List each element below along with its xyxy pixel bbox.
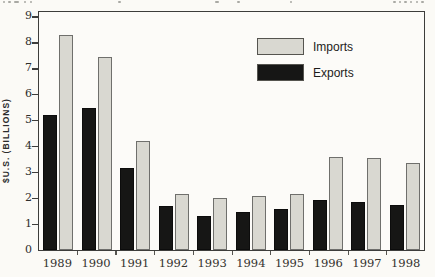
y-tick-label-1: 1 <box>14 217 32 231</box>
bar-group-1989 <box>39 12 78 250</box>
bar-imports-1990 <box>98 57 112 250</box>
bar-imports-1991 <box>136 141 150 250</box>
plot-area: ImportsExports <box>38 11 425 251</box>
x-tick-label-1996: 1996 <box>309 256 348 270</box>
x-tick-label-1990: 1990 <box>77 256 116 270</box>
legend-label-exports: Exports <box>313 66 354 80</box>
bar-imports-1996 <box>329 157 343 250</box>
bar-exports-1998 <box>390 205 404 250</box>
x-tick-label-1992: 1992 <box>154 256 193 270</box>
scanned-figure-page: $U.S. (BILLIONS) 0123456789 ImportsExpor… <box>0 0 435 277</box>
y-tick-label-5: 5 <box>14 113 32 127</box>
bar-exports-1991 <box>120 168 134 250</box>
x-tick-label-1995: 1995 <box>270 256 309 270</box>
x-tick-mark <box>270 251 271 255</box>
x-tick-label-1997: 1997 <box>348 256 387 270</box>
bar-imports-1997 <box>367 158 381 250</box>
bar-exports-1990 <box>82 108 96 251</box>
bar-imports-1994 <box>252 196 266 250</box>
bar-groups <box>39 12 424 250</box>
y-tick-label-8: 8 <box>14 35 32 49</box>
legend-item-imports: Imports <box>257 38 353 55</box>
bar-imports-1992 <box>175 194 189 250</box>
x-tick-label-1994: 1994 <box>232 256 271 270</box>
y-tick-label-9: 9 <box>14 9 32 23</box>
bar-group-1993 <box>193 12 232 250</box>
bar-imports-1998 <box>406 163 420 250</box>
x-tick-label-1993: 1993 <box>193 256 232 270</box>
bar-imports-1995 <box>290 194 304 250</box>
bar-group-1990 <box>78 12 117 250</box>
bar-group-1992 <box>155 12 194 250</box>
x-tick-mark <box>193 251 194 255</box>
x-tick-mark <box>115 251 116 255</box>
x-tick-mark <box>232 251 233 255</box>
bar-exports-1994 <box>236 212 250 250</box>
x-axis-labels: 1989199019911992199319941995199619971998 <box>38 256 425 270</box>
x-tick-label-1989: 1989 <box>38 256 77 270</box>
y-tick-label-7: 7 <box>14 61 32 75</box>
bar-exports-1992 <box>159 206 173 250</box>
x-tick-mark <box>309 251 310 255</box>
bar-imports-1993 <box>213 198 227 250</box>
bar-exports-1989 <box>43 115 57 250</box>
y-tick-label-0: 0 <box>14 243 32 257</box>
bar-group-1991 <box>116 12 155 250</box>
y-axis-title-text: $U.S. (BILLIONS) <box>1 98 11 183</box>
bar-exports-1996 <box>313 200 327 251</box>
x-tick-label-1998: 1998 <box>386 256 425 270</box>
bar-exports-1997 <box>351 202 365 250</box>
bar-group-1998 <box>386 12 425 250</box>
x-tick-label-1991: 1991 <box>115 256 154 270</box>
legend-item-exports: Exports <box>257 64 354 81</box>
cropped-text-fragments <box>0 0 435 5</box>
bar-imports-1989 <box>59 35 73 250</box>
legend-swatch-imports <box>257 38 304 55</box>
y-tick-label-6: 6 <box>14 87 32 101</box>
y-tick-label-4: 4 <box>14 139 32 153</box>
x-tick-mark <box>348 251 349 255</box>
y-tick-label-2: 2 <box>14 191 32 205</box>
y-tick-label-3: 3 <box>14 165 32 179</box>
bar-exports-1993 <box>197 216 211 250</box>
x-tick-mark <box>77 251 78 255</box>
legend-label-imports: Imports <box>313 40 353 54</box>
bar-exports-1995 <box>274 209 288 250</box>
x-tick-mark <box>154 251 155 255</box>
legend-swatch-exports <box>257 64 304 81</box>
x-tick-mark <box>386 251 387 255</box>
